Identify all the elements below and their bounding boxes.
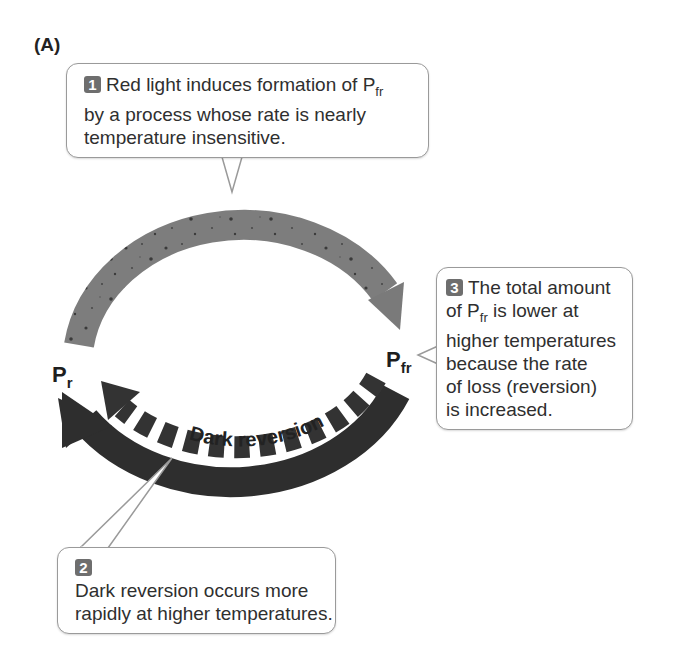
step-3-badge: 3 [446, 279, 463, 296]
step-1-badge: 1 [84, 76, 101, 93]
callout-3-line-2a: of P [446, 300, 480, 321]
step-2-badge: 2 [75, 559, 92, 576]
callout-2: 2Dark reversion occurs more rapidly at h… [57, 547, 336, 634]
callout-3-line-4: because the rate [446, 353, 588, 374]
callout-3-subscript: fr [480, 310, 488, 325]
pr-node-label: Pr [52, 362, 73, 391]
callout-1-subscript: fr [375, 84, 383, 99]
callout-2-line-2: rapidly at higher temperatures. [75, 603, 333, 624]
pfr-node-label: Pfr [386, 347, 412, 376]
pfr-base: P [386, 347, 401, 372]
dark-reversion-label: Dark reversion [187, 409, 326, 450]
callout-2-line-1: Dark reversion occurs more [75, 580, 308, 601]
callout-1-line-1: Red light induces formation of P [106, 74, 375, 95]
callout-3-line-5: of loss (reversion) [446, 376, 597, 397]
callout-1-line-3: temperature insensitive. [84, 127, 286, 148]
callout-3-line-3: higher temperatures [446, 330, 616, 351]
callout-3-line-1: The total amount [468, 277, 611, 298]
callout-3-line-6: is increased. [446, 399, 553, 420]
pr-subscript: r [67, 374, 73, 391]
callout-3-pointer [418, 346, 438, 364]
callout-3: 3The total amount of Pfr is lower at hig… [436, 267, 633, 430]
callout-2-pointer [80, 458, 172, 548]
pfr-subscript: fr [401, 359, 412, 376]
callout-1-line-2: by a process whose rate is nearly [84, 104, 366, 125]
red-light-label: Red light [192, 185, 280, 210]
red-light-arrow [79, 225, 404, 345]
callout-1: 1Red light induces formation of Pfr by a… [66, 63, 429, 158]
callout-3-line-2b: is lower at [488, 300, 579, 321]
pr-base: P [52, 362, 67, 387]
